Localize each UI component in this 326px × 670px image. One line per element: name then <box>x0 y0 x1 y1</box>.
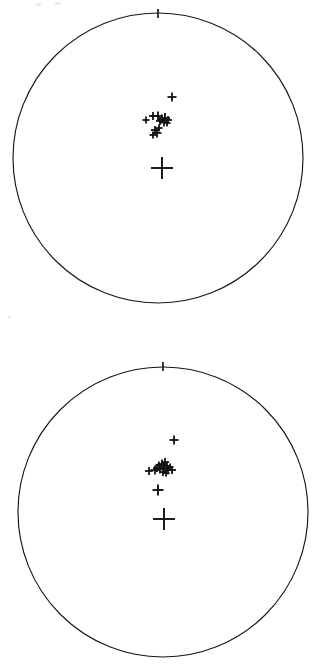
scan-speck-0 <box>36 3 41 6</box>
pole-series-0 <box>143 93 177 180</box>
primitive-circle <box>13 13 303 303</box>
primitive-circle <box>18 367 308 657</box>
pole-figure-canvas <box>0 0 326 670</box>
scan-artifact-layer <box>8 2 61 319</box>
pole-marker <box>168 93 177 102</box>
upper-stereonet <box>13 9 303 303</box>
pole-marker <box>153 508 175 530</box>
pole-marker <box>145 467 153 475</box>
lower-stereonet <box>18 362 308 657</box>
pole-marker <box>151 157 173 179</box>
stereonet-panel-layer <box>13 9 308 657</box>
stereonet-figure <box>0 0 326 670</box>
pole-marker <box>170 436 179 445</box>
pole-marker-layer <box>143 93 179 531</box>
pole-marker <box>153 485 164 496</box>
scan-speck-1 <box>55 2 61 5</box>
pole-series-1 <box>145 436 179 531</box>
scan-speck-2 <box>8 316 11 319</box>
pole-marker <box>143 117 150 124</box>
